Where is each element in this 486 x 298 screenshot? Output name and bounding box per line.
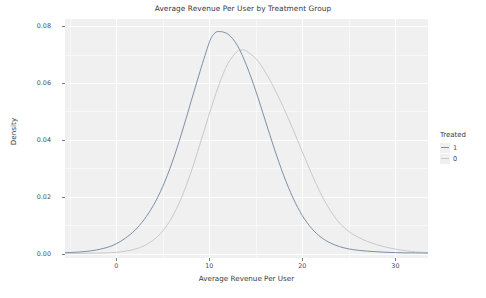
legend-key-icon-treated-0 (440, 154, 450, 164)
y-axis-tick-label: 0.04 (37, 136, 51, 144)
plot-panel (65, 19, 428, 258)
x-axis-tick-mark (209, 258, 210, 261)
legend-item-treated-0[interactable]: 0 (440, 153, 466, 164)
density-curve-treated-0 (65, 50, 428, 254)
legend-key-icon-treated-1 (440, 143, 450, 153)
y-axis-tick-mark (62, 254, 65, 255)
legend-label-treated-1: 1 (453, 144, 457, 152)
density-curve-treated-1 (65, 32, 428, 254)
y-axis-tick-mark (62, 140, 65, 141)
chart-title: Average Revenue Per User by Treatment Gr… (0, 4, 486, 13)
y-axis-label: Density (9, 97, 18, 167)
x-axis-tick-mark (395, 258, 396, 261)
y-axis-tick-mark (62, 83, 65, 84)
legend-label-treated-0: 0 (453, 155, 457, 163)
x-axis-label: Average Revenue Per User (65, 274, 428, 283)
y-axis-tick-label: 0.02 (37, 193, 51, 201)
y-axis-tick-label: 0.00 (37, 250, 51, 258)
legend: Treated 1 0 (440, 131, 466, 164)
x-axis-tick-mark (116, 258, 117, 261)
y-axis-tick-label: 0.06 (37, 79, 51, 87)
x-axis-tick-label: 0 (114, 262, 118, 270)
x-axis-tick-label: 30 (391, 262, 399, 270)
legend-item-treated-1[interactable]: 1 (440, 142, 466, 153)
x-axis-tick-mark (302, 258, 303, 261)
x-axis-tick-label: 20 (298, 262, 306, 270)
legend-title: Treated (440, 131, 466, 139)
x-axis-tick-label: 10 (205, 262, 213, 270)
y-axis-tick-mark (62, 26, 65, 27)
y-axis-tick-mark (62, 197, 65, 198)
y-axis-tick-label: 0.08 (37, 22, 51, 30)
density-curves (65, 19, 428, 258)
density-plot-figure: Average Revenue Per User by Treatment Gr… (0, 0, 486, 298)
